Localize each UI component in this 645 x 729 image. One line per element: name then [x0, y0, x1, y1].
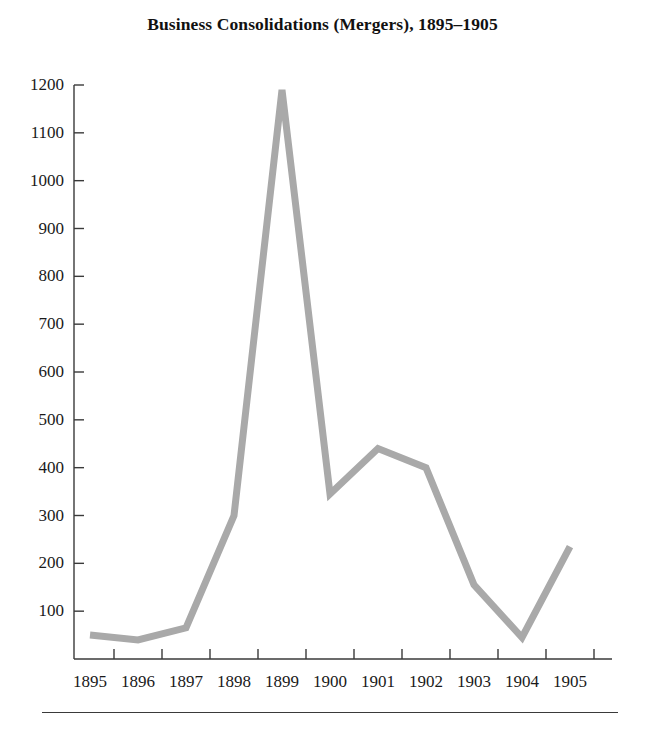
- y-tick-label: 200: [0, 553, 64, 573]
- tick-marks-group: [74, 85, 594, 659]
- y-tick-label: 300: [0, 506, 64, 526]
- plot-area: 100200300400500600700800900100011001200 …: [0, 0, 645, 700]
- y-tick-label: 1200: [0, 75, 64, 95]
- y-tick-label: 700: [0, 314, 64, 334]
- x-tick-label: 1902: [409, 672, 443, 692]
- x-tick-label: 1895: [73, 672, 107, 692]
- x-tick-label: 1896: [121, 672, 155, 692]
- x-tick-label: 1901: [361, 672, 395, 692]
- x-tick-label: 1904: [505, 672, 539, 692]
- y-tick-label: 600: [0, 362, 64, 382]
- x-tick-label: 1903: [457, 672, 491, 692]
- y-tick-label: 400: [0, 458, 64, 478]
- chart-figure: Business Consolidations (Mergers), 1895–…: [0, 0, 645, 729]
- y-tick-label: 800: [0, 266, 64, 286]
- y-tick-label: 1100: [0, 123, 64, 143]
- y-tick-label: 1000: [0, 171, 64, 191]
- y-tick-label: 900: [0, 219, 64, 239]
- x-tick-label: 1899: [265, 672, 299, 692]
- axes-group: [74, 85, 612, 659]
- footer-rule: [42, 712, 618, 713]
- x-tick-label: 1897: [169, 672, 203, 692]
- x-tick-label: 1898: [217, 672, 251, 692]
- y-tick-label: 100: [0, 601, 64, 621]
- x-tick-label: 1905: [553, 672, 587, 692]
- x-tick-label: 1900: [313, 672, 347, 692]
- y-tick-label: 500: [0, 410, 64, 430]
- data-series-line: [90, 90, 570, 640]
- line-chart-svg: [0, 0, 645, 700]
